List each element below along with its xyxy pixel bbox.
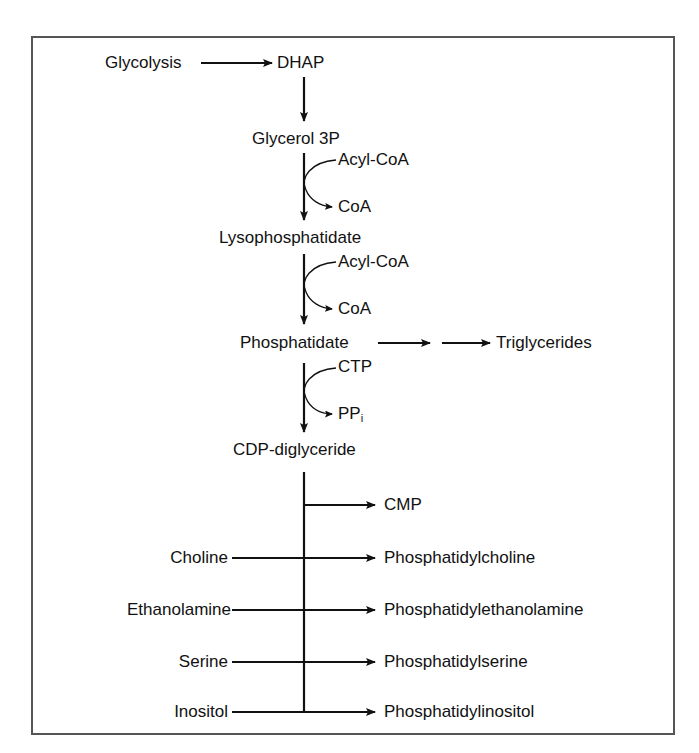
node-phosphatidate: Phosphatidate: [240, 333, 349, 353]
product-phosphatidylinositol: Phosphatidylinositol: [384, 702, 534, 722]
node-dhap: DHAP: [277, 53, 324, 73]
side-input-acyl-coa-1: Acyl-CoA: [338, 150, 409, 170]
ppi-text: PP: [338, 404, 361, 423]
substrate-choline: Choline: [170, 548, 228, 568]
curved-arrow-ctp: [304, 368, 336, 414]
product-phosphatidylethanolamine: Phosphatidylethanolamine: [384, 600, 583, 620]
node-glycolysis: Glycolysis: [105, 53, 182, 73]
node-triglycerides: Triglycerides: [496, 333, 592, 353]
curved-arrow-acyl-coa-1: [304, 160, 336, 207]
side-output-coa-1: CoA: [338, 197, 371, 217]
side-output-coa-2: CoA: [338, 299, 371, 319]
product-phosphatidylcholine: Phosphatidylcholine: [384, 548, 535, 568]
node-cmp: CMP: [384, 495, 422, 515]
node-glycerol-3p: Glycerol 3P: [252, 129, 340, 149]
curved-arrow-acyl-coa-2: [304, 262, 336, 309]
ppi-subscript: i: [361, 412, 363, 424]
substrate-serine: Serine: [179, 652, 228, 672]
side-input-ctp: CTP: [338, 357, 372, 377]
node-cdp-diglyceride: CDP-diglyceride: [233, 440, 356, 460]
side-output-ppi: PPi: [338, 404, 363, 425]
substrate-inositol: Inositol: [174, 702, 228, 722]
side-input-acyl-coa-2: Acyl-CoA: [338, 252, 409, 272]
node-lysophosphatidate: Lysophosphatidate: [219, 228, 361, 248]
product-phosphatidylserine: Phosphatidylserine: [384, 652, 528, 672]
substrate-ethanolamine: Ethanolamine: [127, 600, 231, 620]
